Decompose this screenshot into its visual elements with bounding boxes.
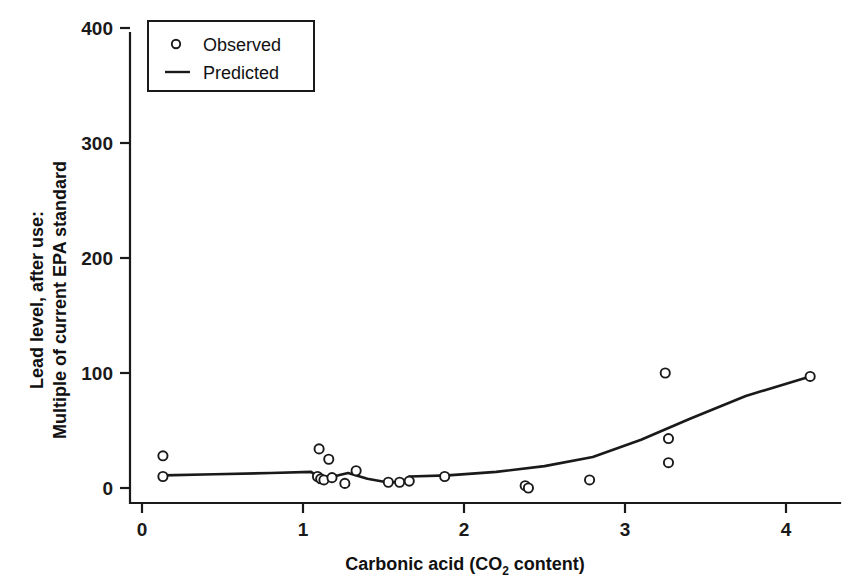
y-tick-marks	[120, 28, 130, 488]
x-tick-label: 2	[459, 519, 470, 540]
y-axis-title: Lead level, after use: Multiple of curre…	[27, 161, 70, 439]
scatter-plot: 01234 0100200300400 Lead level, after us…	[0, 0, 847, 586]
observed-data-point	[664, 458, 673, 467]
x-tick-label: 0	[137, 519, 148, 540]
y-tick-label: 400	[81, 18, 113, 39]
observed-data-point	[158, 472, 167, 481]
x-tick-marks	[142, 503, 786, 513]
x-tick-label: 1	[298, 519, 309, 540]
x-tick-label: 3	[620, 519, 631, 540]
observed-data-point	[158, 451, 167, 460]
observed-data-point	[806, 372, 815, 381]
x-tick-label: 4	[781, 519, 792, 540]
observed-data-point	[315, 444, 324, 453]
observed-data-point	[324, 455, 333, 464]
y-tick-label: 300	[81, 133, 113, 154]
y-axis-title-line1: Lead level, after use:	[27, 211, 47, 389]
y-tick-label: 100	[81, 363, 113, 384]
legend[interactable]: Observed Predicted	[148, 21, 314, 91]
svg-text:Carbonic acid (CO2 content): Carbonic acid (CO2 content)	[345, 554, 585, 578]
observed-data-point	[661, 368, 670, 377]
x-axis-title: Carbonic acid (CO2 content)	[345, 554, 585, 578]
observed-data-point	[340, 479, 349, 488]
y-tick-labels: 0100200300400	[81, 18, 113, 499]
observed-data-point	[585, 475, 594, 484]
observed-data-point	[352, 466, 361, 475]
observed-data-point	[384, 478, 393, 487]
observed-data-point	[524, 483, 533, 492]
observed-data-point	[405, 477, 414, 486]
axes-group	[120, 28, 840, 513]
y-tick-label: 200	[81, 248, 113, 269]
y-tick-label: 0	[102, 478, 113, 499]
observed-data-point	[664, 434, 673, 443]
y-axis-title-line2: Multiple of current EPA standard	[50, 161, 70, 439]
x-tick-labels: 01234	[137, 519, 792, 540]
x-axis-title-main: Carbonic acid (CO	[345, 554, 502, 574]
observed-data-point	[440, 472, 449, 481]
observed-data-point	[327, 473, 336, 482]
x-axis-title-tail: content)	[509, 554, 585, 574]
legend-observed-marker-icon	[172, 40, 180, 48]
predicted-line-series	[163, 376, 810, 482]
axis-lines	[130, 33, 840, 503]
chart-figure: 01234 0100200300400 Lead level, after us…	[0, 0, 847, 586]
legend-observed-label: Observed	[203, 35, 281, 55]
legend-predicted-label: Predicted	[203, 63, 279, 83]
predicted-curve	[163, 376, 810, 482]
observed-data-point	[395, 478, 404, 487]
